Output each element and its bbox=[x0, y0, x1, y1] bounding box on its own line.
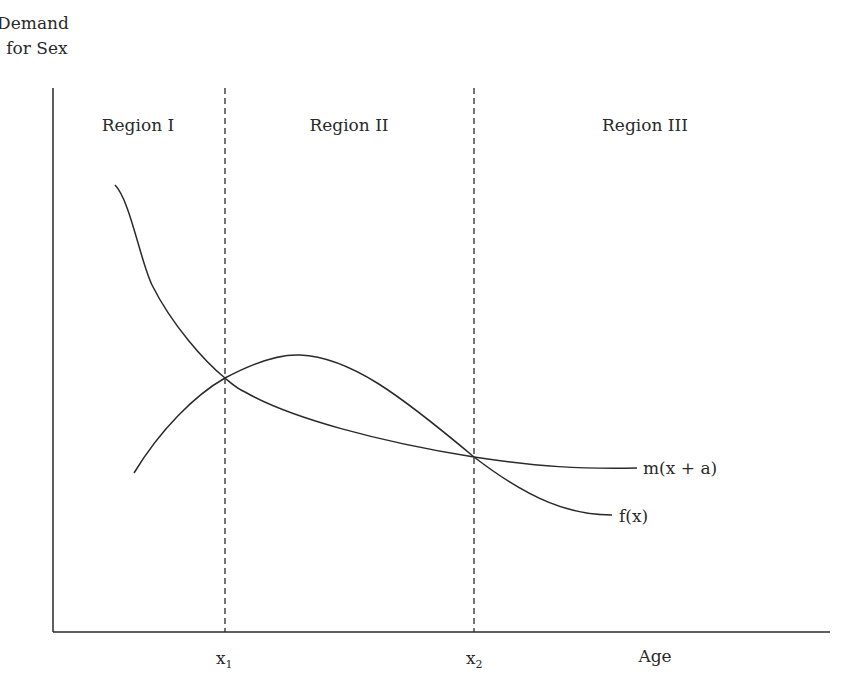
region-3-label: Region III bbox=[602, 115, 688, 135]
x-axis-label: Age bbox=[637, 646, 671, 666]
curve-m-label: m(x + a) bbox=[643, 458, 717, 478]
x2-tick-label: x2 bbox=[466, 648, 483, 671]
curve-f-label: f(x) bbox=[619, 506, 648, 526]
curve-m-x-plus-a bbox=[115, 185, 637, 468]
region-1-label: Region I bbox=[102, 115, 174, 135]
y-axis-label-line2: for Sex bbox=[6, 38, 68, 58]
x1-tick-label: x1 bbox=[216, 648, 233, 671]
region-2-label: Region II bbox=[309, 115, 388, 135]
y-axis-label-line1: Demand bbox=[0, 13, 69, 33]
chart-canvas: Demand for Sex Region I Region II Region… bbox=[0, 0, 862, 689]
curve-f-x bbox=[134, 355, 612, 515]
